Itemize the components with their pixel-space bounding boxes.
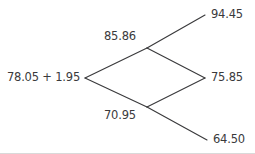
node-label-root: 78.05 + 1.95 [0,72,80,84]
edge-down-to-up-down [147,78,205,107]
edge-up-to-up-up [147,15,205,48]
node-label-up-up: 94.45 [211,9,243,21]
edge-up-to-up-down [147,48,205,78]
edge-root-to-up [85,48,147,78]
node-label-down-down: 64.50 [213,134,245,146]
node-label-down: 70.95 [104,110,136,122]
binomial-lattice-figure: 78.05 + 1.95 85.86 70.95 94.45 75.85 64.… [0,0,255,154]
edge-root-to-down [85,78,147,107]
bottom-divider [0,153,255,154]
edge-down-to-down-down [147,107,207,140]
node-label-up-down: 75.85 [211,72,243,84]
node-label-up: 85.86 [104,31,136,43]
